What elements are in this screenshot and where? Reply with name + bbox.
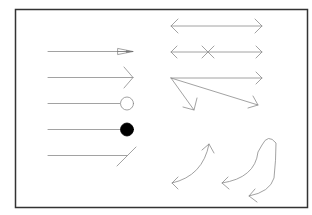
diagram-frame <box>16 10 308 208</box>
diagram-canvas: Arrow and line-end styles <box>0 0 312 215</box>
diagram-svg <box>0 0 312 215</box>
open-circle-icon <box>121 97 134 110</box>
filled-dot-icon <box>121 123 134 136</box>
